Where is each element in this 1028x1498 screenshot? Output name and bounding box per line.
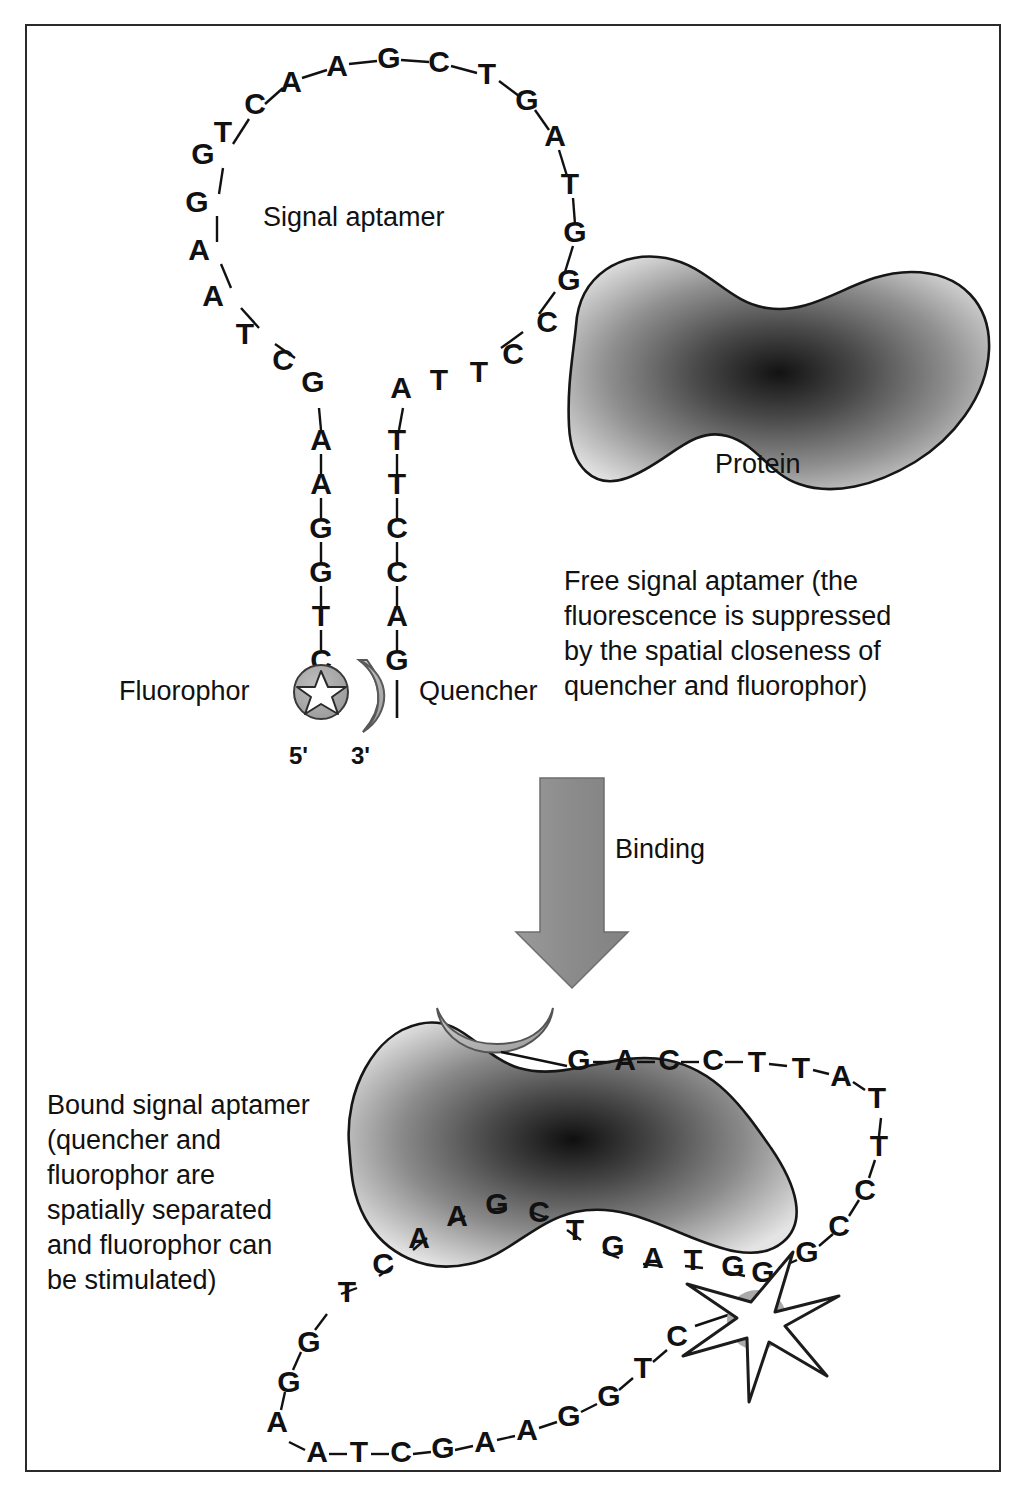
svg-text:T: T (470, 355, 488, 388)
svg-text:A: A (386, 599, 408, 632)
svg-text:C: C (828, 1209, 850, 1242)
quencher-label: Quencher (419, 676, 538, 707)
svg-text:G: G (431, 1431, 454, 1464)
svg-text:T: T (214, 115, 232, 148)
svg-text:A: A (642, 1241, 664, 1274)
svg-text:C: C (386, 511, 408, 544)
svg-text:G: G (485, 1187, 508, 1220)
svg-text:G: G (297, 1325, 320, 1358)
bound-bottom-strand: A T C G A A G G T C (289, 1314, 731, 1468)
svg-text:T: T (868, 1081, 886, 1114)
svg-text:G: G (385, 643, 408, 676)
svg-text:C: C (536, 305, 558, 338)
svg-text:A: A (310, 423, 332, 456)
binding-label: Binding (615, 834, 705, 865)
svg-text:A: A (408, 1221, 430, 1254)
svg-text:T: T (634, 1351, 652, 1384)
svg-text:C: C (428, 45, 450, 78)
svg-text:G: G (597, 1379, 620, 1412)
svg-text:T: T (748, 1045, 766, 1078)
svg-text:T: T (870, 1129, 888, 1162)
svg-text:G: G (301, 365, 324, 398)
svg-text:T: T (430, 363, 448, 396)
fluorophore-free (294, 665, 348, 719)
free-aptamer-right-stem: T T C C A G (385, 408, 408, 718)
svg-text:T: T (566, 1213, 584, 1246)
svg-text:A: A (266, 1405, 288, 1438)
svg-text:A: A (202, 279, 224, 312)
svg-text:C: C (372, 1247, 394, 1280)
quencher-free (359, 660, 384, 732)
svg-text:G: G (557, 263, 580, 296)
svg-text:A: A (188, 233, 210, 266)
svg-text:T: T (350, 1435, 368, 1468)
svg-text:G: G (563, 215, 586, 248)
svg-text:A: A (326, 49, 348, 82)
svg-text:G: G (277, 1365, 300, 1398)
svg-text:C: C (666, 1319, 688, 1352)
free-aptamer-caption: Free signal aptamer (the fluorescence is… (564, 564, 964, 704)
three-prime-label: 3' (351, 742, 370, 770)
bound-left-strand: G G A (266, 1314, 327, 1438)
svg-text:A: A (310, 467, 332, 500)
svg-text:C: C (658, 1043, 680, 1076)
svg-text:A: A (516, 1413, 538, 1446)
svg-text:A: A (280, 65, 302, 98)
svg-text:C: C (272, 343, 294, 376)
bound-aptamer-caption: Bound signal aptamer (quencher and fluor… (47, 1088, 347, 1298)
svg-text:T: T (388, 423, 406, 456)
svg-text:A: A (614, 1043, 636, 1076)
svg-text:G: G (567, 1043, 590, 1076)
svg-text:C: C (854, 1173, 876, 1206)
figure-border: T C A A G C T G A T G G C C T T G G A A (25, 24, 1001, 1472)
svg-text:C: C (702, 1043, 724, 1076)
five-prime-label: 5' (289, 742, 308, 770)
svg-text:T: T (388, 467, 406, 500)
svg-text:C: C (528, 1195, 550, 1228)
svg-text:A: A (390, 371, 412, 404)
svg-text:T: T (684, 1243, 702, 1276)
svg-text:G: G (377, 41, 400, 74)
fluorophor-label: Fluorophor (119, 676, 250, 707)
svg-text:G: G (185, 185, 208, 218)
binding-arrow (516, 778, 628, 988)
svg-text:G: G (721, 1249, 744, 1282)
svg-text:C: C (386, 555, 408, 588)
svg-text:T: T (561, 167, 579, 200)
svg-text:A: A (830, 1059, 852, 1092)
svg-text:G: G (309, 511, 332, 544)
svg-text:A: A (474, 1425, 496, 1458)
svg-text:C: C (390, 1435, 412, 1468)
svg-text:A: A (446, 1199, 468, 1232)
svg-text:T: T (792, 1051, 810, 1084)
svg-text:G: G (515, 83, 538, 116)
svg-text:A: A (306, 1435, 328, 1468)
svg-text:G: G (191, 137, 214, 170)
svg-text:A: A (544, 119, 566, 152)
protein-label: Protein (715, 449, 801, 480)
svg-text:G: G (557, 1399, 580, 1432)
diagram-stage: T C A A G C T G A T G G C C T T G G A A (27, 26, 1003, 1474)
svg-text:C: C (502, 337, 524, 370)
svg-text:C: C (244, 87, 266, 120)
svg-text:G: G (795, 1235, 818, 1268)
svg-text:T: T (478, 57, 496, 90)
svg-text:T: T (312, 599, 330, 632)
signal-aptamer-label: Signal aptamer (263, 202, 445, 233)
svg-text:T: T (236, 317, 254, 350)
svg-text:G: G (309, 555, 332, 588)
svg-text:G: G (601, 1229, 624, 1262)
